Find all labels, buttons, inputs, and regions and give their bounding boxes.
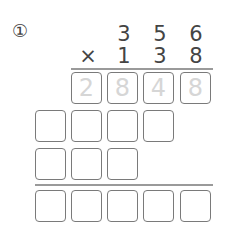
answer-box[interactable]: 2 [71, 72, 102, 104]
times-operator: × [72, 44, 104, 68]
answer-box[interactable] [107, 148, 138, 180]
result-box[interactable] [143, 190, 174, 222]
answer-box[interactable] [71, 110, 102, 142]
multiplier-digit: 8 [180, 44, 212, 68]
answer-box[interactable] [71, 148, 102, 180]
multiplicand-digit: 6 [180, 22, 212, 46]
multiplicand-digit: 3 [108, 22, 140, 46]
sum-rule [35, 184, 213, 186]
result-box[interactable] [107, 190, 138, 222]
problem-number: ① [12, 20, 28, 41]
answer-box[interactable] [35, 148, 66, 180]
answer-box[interactable] [143, 110, 174, 142]
result-box[interactable] [35, 190, 66, 222]
answer-box[interactable]: 4 [143, 72, 174, 104]
multiplier-digit: 3 [144, 44, 176, 68]
answer-box[interactable]: 8 [107, 72, 138, 104]
multiplication-rule [71, 68, 213, 70]
result-box[interactable] [180, 190, 211, 222]
answer-box[interactable]: 8 [180, 72, 211, 104]
multiplier-digit: 1 [108, 44, 140, 68]
answer-box[interactable] [35, 110, 66, 142]
answer-box[interactable] [107, 110, 138, 142]
result-box[interactable] [71, 190, 102, 222]
multiplicand-digit: 5 [144, 22, 176, 46]
